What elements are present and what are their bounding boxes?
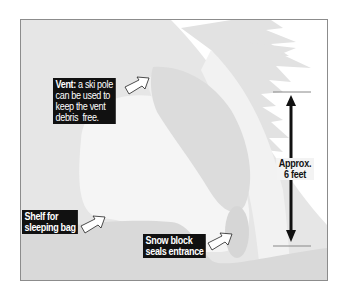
diagram-frame: Vent: a ski pole can be used to keep the… — [20, 19, 328, 281]
vent-callout: Vent: a ski pole can be used to keep the… — [53, 78, 115, 124]
shelf-callout-line2: sleeping bag — [25, 221, 76, 233]
snow-block-callout-line2: seals entrance — [146, 245, 204, 257]
snow-block — [225, 206, 249, 258]
height-measurement-label: Approx. 6 feet — [276, 158, 314, 180]
snow-block-callout: Snow block seals entrance — [143, 234, 206, 258]
measurement-line2: 6 feet — [276, 169, 314, 180]
vent-callout-line4: debris free. — [56, 111, 99, 123]
shelf-callout: Shelf for sleeping bag — [22, 210, 78, 234]
